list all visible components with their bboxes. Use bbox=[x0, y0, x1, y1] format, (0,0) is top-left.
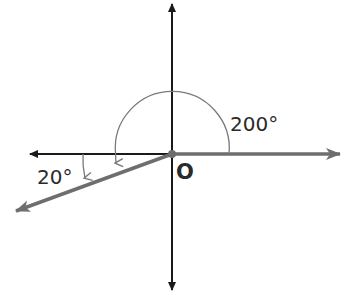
angle-arc-20 bbox=[83, 154, 85, 178]
origin-point bbox=[168, 150, 176, 158]
angle-label-20: 20° bbox=[37, 165, 72, 189]
angle-diagram: 200° 20° O bbox=[0, 0, 359, 306]
angle-label-200: 200° bbox=[230, 112, 278, 136]
origin-label: O bbox=[176, 160, 194, 184]
